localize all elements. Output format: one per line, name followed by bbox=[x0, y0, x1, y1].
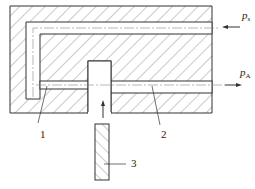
housing-body bbox=[10, 6, 212, 113]
output-arrow-icon bbox=[225, 83, 242, 87]
supply-arrow-icon bbox=[222, 25, 240, 29]
diagram-canvas bbox=[0, 0, 255, 189]
supply-pressure-label: ps bbox=[242, 9, 250, 23]
part-label-3: 3 bbox=[131, 157, 137, 169]
flapper-part-3 bbox=[95, 124, 109, 180]
output-pressure-label: pA bbox=[240, 66, 251, 80]
part-label-1: 1 bbox=[40, 128, 46, 140]
part-label-2: 2 bbox=[161, 128, 167, 140]
